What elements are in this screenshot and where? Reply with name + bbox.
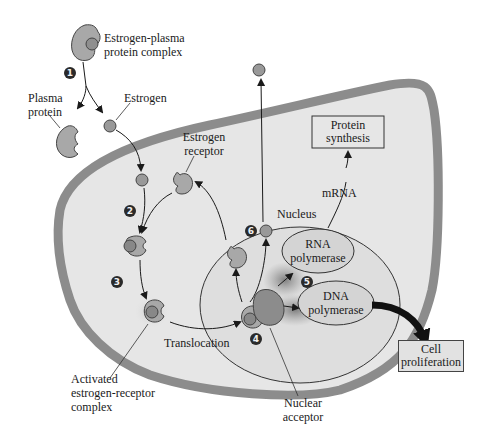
label-estrogen-receptor: Estrogen receptor bbox=[174, 130, 234, 158]
protein-synthesis-label: Protein synthesis bbox=[312, 116, 384, 148]
leader-estrogen bbox=[116, 103, 130, 120]
released-receptor bbox=[228, 247, 247, 268]
label-nucleus: Nucleus bbox=[277, 207, 316, 221]
label-estrogen-plasma-complex: Estrogen-plasma protein complex bbox=[104, 31, 185, 59]
arrow-dissociation-left bbox=[78, 62, 86, 108]
step-badge-4: 4 bbox=[250, 333, 262, 345]
step-badge-2: 2 bbox=[124, 205, 136, 217]
step-badge-3: 3 bbox=[111, 276, 123, 288]
label-mrna: mRNA bbox=[322, 186, 357, 200]
step-badge-1: 1 bbox=[64, 67, 76, 79]
step-badge-5: 5 bbox=[301, 276, 313, 288]
estrogen-mechanism-diagram: 1 2 3 4 5 6 Estrogen-plasma protein comp… bbox=[0, 0, 488, 434]
released-estrogen bbox=[260, 225, 272, 237]
label-rna-polymerase: RNA polymerase bbox=[288, 237, 348, 265]
activated-estrogen-receptor-complex bbox=[144, 300, 164, 322]
label-nuclear-acceptor: Nuclear acceptor bbox=[278, 396, 328, 424]
label-dna-polymerase: DNA polymerase bbox=[306, 289, 366, 317]
estrogen-receptor-molecule bbox=[174, 173, 193, 194]
plasma-protein-molecule bbox=[56, 126, 78, 158]
estrogen-molecule-outside bbox=[104, 120, 116, 132]
label-activated-complex: Activated estrogen-receptor complex bbox=[71, 372, 155, 414]
estrogen-plasma-complex-molecule bbox=[72, 25, 101, 61]
label-plasma-protein: Plasma protein bbox=[28, 91, 63, 119]
label-estrogen: Estrogen bbox=[124, 91, 167, 105]
label-translocation: Translocation bbox=[164, 336, 230, 350]
estrogen-leaving-cell bbox=[253, 64, 265, 76]
arrow-dissociation-right bbox=[86, 86, 102, 112]
estrogen-molecule-cytoplasm bbox=[136, 174, 148, 186]
cell-proliferation-box: Cell proliferation bbox=[398, 340, 464, 372]
step-badge-6: 6 bbox=[245, 225, 257, 237]
